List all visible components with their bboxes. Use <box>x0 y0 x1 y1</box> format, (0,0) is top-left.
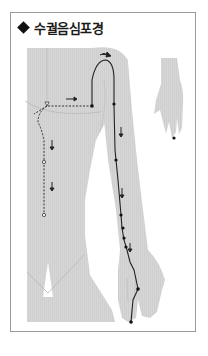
acupoint <box>121 226 124 229</box>
acupoint <box>122 236 125 239</box>
acupoint <box>136 287 140 291</box>
hand-inset <box>154 58 183 140</box>
meridian-figure <box>0 0 208 356</box>
acupoint <box>91 105 94 108</box>
acupoint <box>114 158 117 161</box>
acupoint <box>129 320 133 324</box>
hand-inset-point <box>172 136 175 139</box>
acupoint <box>119 213 122 216</box>
acupoint <box>124 245 127 248</box>
acupoint <box>112 102 115 105</box>
arm-silhouette <box>92 47 165 322</box>
